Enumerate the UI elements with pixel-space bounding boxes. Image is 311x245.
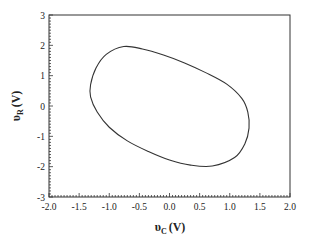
y-tick-label: -3 [37, 193, 45, 203]
x-tick-label: -1.5 [72, 202, 87, 212]
y-tick-label: 2 [40, 41, 45, 51]
plot-border [49, 15, 290, 197]
plot-frame [49, 15, 290, 197]
x-axis-label: υC(V) [155, 220, 186, 236]
x-tick-label: -1.0 [102, 202, 117, 212]
x-tick-label: 0.0 [164, 202, 176, 212]
x-tick-label: 2.0 [284, 202, 296, 212]
y-tick-labels: 3210-1-2-3 [37, 11, 45, 203]
y-tick-label: 1 [40, 71, 45, 81]
y-tick-label: 3 [40, 11, 45, 21]
y-axis-label: υR(V) [9, 91, 25, 122]
minor-ticks [49, 15, 290, 197]
x-tick-label: -2.0 [41, 202, 56, 212]
x-tick-label: -0.5 [132, 202, 147, 212]
limit-cycle-curve [90, 46, 249, 166]
y-tick-label: -2 [37, 162, 45, 172]
phase-portrait-chart: -2.0-1.5-1.0-0.50.00.51.01.52.0 3210-1-2… [0, 0, 311, 245]
x-tick-label: 1.0 [224, 202, 236, 212]
x-tick-labels: -2.0-1.5-1.0-0.50.00.51.01.52.0 [41, 202, 296, 212]
x-tick-label: 1.5 [254, 202, 266, 212]
y-tick-label: -1 [37, 132, 45, 142]
y-tick-label: 0 [40, 102, 45, 112]
x-tick-label: 0.5 [194, 202, 206, 212]
